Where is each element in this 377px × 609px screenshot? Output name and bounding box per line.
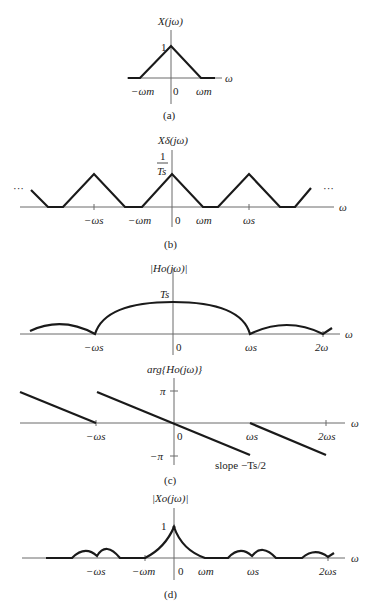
c-mag-tick-neg-ws: −ωs (84, 341, 103, 353)
b-tick-wm: ωm (196, 214, 212, 226)
c-phase-slope-annotation: slope −Ts/2 (215, 459, 266, 471)
panel-b: Xδ(jω) 1 Ts ··· ··· ω −ωs −ωm 0 ωm ωs (b… (13, 134, 347, 251)
b-tick-neg-wm: −ωm (128, 214, 151, 226)
a-ylabel: X(jω) (157, 15, 183, 28)
d-peak-label: 1 (161, 520, 167, 532)
c-phase-segment-left (20, 392, 96, 423)
b-ellipsis-left: ··· (13, 182, 24, 194)
a-xaxis-label: ω (225, 72, 233, 84)
c-phase-pi-label: π (160, 385, 166, 397)
panel-a: X(jω) 1 ω −ωm 0 ωm (a) (127, 15, 233, 122)
d-tick-ws: ωs (247, 565, 259, 577)
c-mag-xaxis-label: ω (345, 328, 353, 340)
a-tick-zero: 0 (173, 85, 179, 97)
b-peak-den: Ts (157, 165, 166, 177)
c-phase-neg-pi-label: −π (150, 450, 163, 462)
d-ylabel: |Xo(jω)| (152, 492, 188, 505)
b-tick-neg-ws: −ωs (84, 214, 103, 226)
d-caption: (d) (164, 588, 177, 601)
d-tick-neg-wm: −ωm (132, 565, 155, 577)
c-phase-tick-ws: ωs (246, 430, 258, 442)
c-phase-segment-right (250, 423, 326, 455)
panel-c-phase: arg{Ho(jω)} π −π ω −ωs 0 ωs 2ωs slope −T… (20, 363, 359, 487)
c-phase-xaxis-label: ω (351, 417, 359, 429)
c-phase-tick-2ws: 2ωs (318, 430, 336, 442)
d-xaxis-label: ω (351, 552, 359, 564)
a-tick-neg-wm: −ωm (131, 85, 154, 97)
a-peak-label: 1 (161, 41, 167, 53)
d-tick-neg-ws: −ωs (86, 565, 105, 577)
b-tick-ws: ωs (243, 214, 255, 226)
c-caption: (c) (164, 474, 177, 487)
c-phase-tick-zero: 0 (177, 430, 183, 442)
b-tick-zero: 0 (175, 214, 181, 226)
b-peak-num: 1 (160, 150, 166, 162)
c-mag-tick-ws: ωs (245, 341, 257, 353)
a-caption: (a) (163, 109, 176, 122)
d-tick-wm: ωm (198, 565, 214, 577)
c-magnitude-curve (30, 302, 332, 334)
b-ellipsis-right: ··· (323, 182, 334, 194)
b-spectrum-curve (31, 174, 311, 207)
d-tick-zero: 0 (178, 565, 184, 577)
d-tick-2ws: 2ωs (319, 565, 337, 577)
c-phase-tick-neg-ws: −ωs (86, 430, 105, 442)
a-tick-wm: ωm (196, 85, 212, 97)
b-xaxis-label: ω (339, 201, 347, 213)
b-ylabel: Xδ(jω) (157, 134, 188, 147)
c-phase-ylabel: arg{Ho(jω)} (147, 363, 203, 376)
c-mag-ylabel: |Ho(jω)| (150, 262, 188, 275)
b-caption: (b) (164, 238, 177, 251)
d-output-spectrum-curve (46, 527, 334, 558)
c-mag-peak-label: Ts (160, 288, 169, 300)
c-mag-tick-2w: 2ω (315, 341, 329, 353)
figure-canvas: X(jω) 1 ω −ωm 0 ωm (a) Xδ(jω) 1 Ts ··· ·… (0, 0, 377, 609)
c-mag-tick-zero: 0 (176, 341, 182, 353)
panel-d: |Xo(jω)| 1 ω −ωs −ωm 0 ωm ωs 2ωs (d) (22, 492, 359, 601)
panel-c-magnitude: |Ho(jω)| Ts ω −ωs 0 ωs 2ω (20, 262, 353, 355)
